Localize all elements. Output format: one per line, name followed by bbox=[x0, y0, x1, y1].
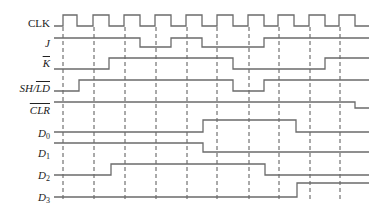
timing-diagram bbox=[0, 0, 388, 210]
label-text: D bbox=[38, 147, 46, 159]
waveform-d1 bbox=[54, 143, 369, 152]
label-text: D bbox=[38, 191, 46, 203]
label-clr-bar: CLR bbox=[30, 104, 50, 116]
waveform-sh-ld-bar bbox=[54, 80, 369, 91]
label-sh-ld-bar: SH/LD bbox=[19, 82, 50, 94]
waveform-d2 bbox=[54, 164, 369, 175]
label-subscript: 2 bbox=[46, 174, 50, 183]
waveform-k-bar bbox=[54, 58, 369, 69]
label-d0: D0 bbox=[38, 127, 50, 143]
waveform-clr-bar bbox=[54, 102, 369, 108]
label-k-bar: K bbox=[43, 57, 50, 69]
waveform-clk bbox=[54, 15, 369, 26]
label-subscript: 3 bbox=[46, 196, 50, 205]
label-text-ld: LD bbox=[36, 82, 50, 94]
label-clk: CLK bbox=[28, 17, 50, 29]
label-text: CLR bbox=[30, 104, 50, 116]
label-subscript: 1 bbox=[46, 152, 50, 161]
label-d3: D3 bbox=[38, 191, 50, 207]
signal-waveforms bbox=[54, 15, 369, 197]
label-text: K bbox=[43, 57, 50, 69]
waveform-d0 bbox=[54, 120, 369, 132]
label-text-sh: SH/ bbox=[19, 82, 36, 94]
waveform-j bbox=[54, 38, 369, 47]
label-j: J bbox=[45, 37, 50, 49]
label-text: D bbox=[38, 169, 46, 181]
label-subscript: 0 bbox=[46, 132, 50, 141]
label-text: J bbox=[45, 37, 50, 49]
label-d1: D1 bbox=[38, 147, 50, 163]
waveform-d3 bbox=[54, 183, 369, 197]
clock-edge-guide-lines bbox=[63, 27, 340, 200]
label-text: D bbox=[38, 127, 46, 139]
label-text: CLK bbox=[28, 17, 50, 29]
label-d2: D2 bbox=[38, 169, 50, 185]
